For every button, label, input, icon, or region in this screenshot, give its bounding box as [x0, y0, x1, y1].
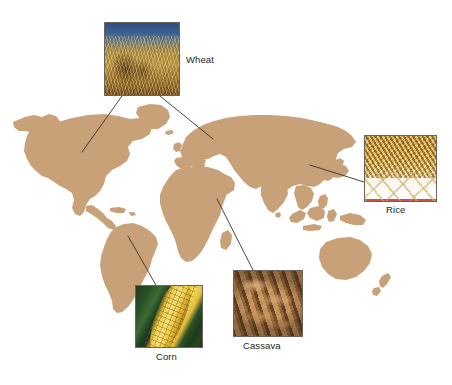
inset-label-wheat: Wheat: [186, 54, 214, 65]
map-landmasses: [13, 104, 391, 313]
inset-label-corn: Corn: [156, 351, 177, 362]
inset-cassava[interactable]: [233, 270, 303, 337]
land-new-zealand-south: [372, 287, 381, 296]
land-sri-lanka: [275, 212, 281, 218]
land-indochina: [294, 185, 314, 210]
rice-photo: [364, 135, 437, 202]
land-caribbean: [110, 207, 126, 213]
rice-baseline-accent: [365, 199, 436, 201]
cassava-photo: [233, 270, 303, 337]
corn-photo: [135, 285, 203, 348]
land-new-guinea: [340, 213, 366, 225]
land-north-america: [24, 114, 152, 216]
inset-rice[interactable]: [364, 135, 437, 202]
land-australia: [319, 237, 372, 280]
land-madagascar: [220, 230, 232, 250]
wheat-photo: [104, 22, 180, 96]
land-sumatra: [289, 210, 306, 223]
crop-origins-figure: Wheat Rice Corn Cassava: [0, 0, 452, 385]
land-africa: [160, 166, 230, 262]
land-india: [261, 180, 288, 213]
inset-label-rice: Rice: [386, 204, 405, 215]
land-new-zealand: [379, 273, 391, 288]
inset-label-cassava: Cassava: [243, 340, 281, 351]
land-lesser-antilles: [129, 212, 136, 216]
land-java: [303, 224, 322, 231]
inset-corn[interactable]: [135, 285, 203, 348]
land-iceland: [165, 130, 174, 135]
land-sulawesi: [327, 209, 337, 222]
inset-wheat[interactable]: [104, 22, 180, 96]
